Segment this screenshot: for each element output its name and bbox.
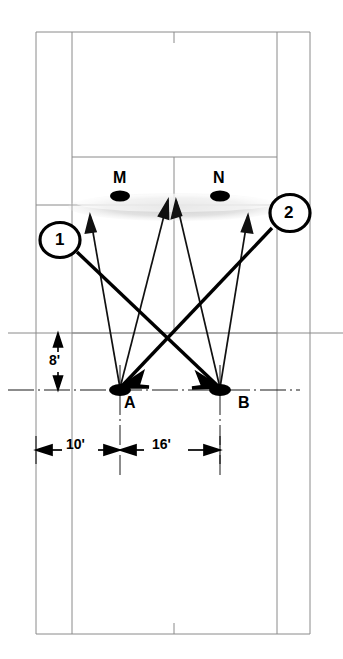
arrow-b-to-right (220, 215, 253, 388)
label-callout-two: 2 (284, 203, 293, 223)
marker-n (210, 191, 230, 202)
label-n: N (213, 169, 225, 187)
marker-b (209, 384, 231, 396)
dimension-horizontal-row (36, 436, 220, 464)
arrow-shot-two (121, 228, 272, 387)
marker-m (110, 191, 130, 202)
dim-16-left-arrowhead (120, 445, 136, 455)
dimension-label-8ft: 8' (49, 352, 60, 368)
arrow-b-to-center (172, 200, 221, 388)
dimension-label-16ft: 16' (152, 436, 171, 452)
court-diagram-svg (0, 0, 343, 659)
label-b: B (238, 394, 250, 412)
player-markers (109, 191, 231, 397)
label-m: M (113, 169, 126, 187)
arrow-a-to-left (86, 215, 121, 388)
reference-lines (8, 365, 300, 478)
figure-canvas: M N A B 1 2 8' 10' 16' (0, 0, 343, 659)
arrow-a-to-center (120, 200, 169, 388)
dim-10-left-arrowhead (36, 445, 52, 455)
label-a: A (124, 394, 136, 412)
thin-trajectory-arrows (86, 200, 253, 388)
arrow-shot-one (77, 252, 219, 388)
dimension-label-10ft: 10' (66, 436, 85, 452)
dim-16-right-arrowhead (204, 445, 220, 455)
label-callout-one: 1 (55, 230, 64, 250)
